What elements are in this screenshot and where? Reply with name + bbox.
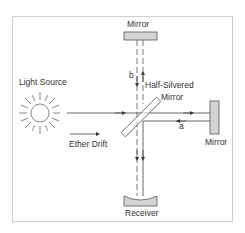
- top-mirror-label: Mirror: [127, 20, 149, 29]
- right-mirror-label: Mirror: [205, 138, 227, 147]
- light-source-icon: [19, 92, 60, 134]
- path-b-label: b: [129, 71, 134, 80]
- ether-drift-label: Ether Drift: [69, 140, 107, 149]
- path-a-label: a: [179, 122, 184, 131]
- half-silvered-mirror-label: Mirror: [161, 93, 183, 102]
- light-source-label: Light Source: [19, 78, 67, 87]
- receiver-shape: [124, 196, 157, 206]
- half-silvered-mirror-shape: [121, 97, 161, 137]
- half-silvered-label: Half-Silvered: [145, 81, 194, 90]
- top-mirror-shape: [124, 32, 157, 40]
- receiver-label: Receiver: [125, 209, 159, 218]
- interferometer-diagram: [0, 0, 245, 233]
- right-mirror-shape: [210, 101, 219, 134]
